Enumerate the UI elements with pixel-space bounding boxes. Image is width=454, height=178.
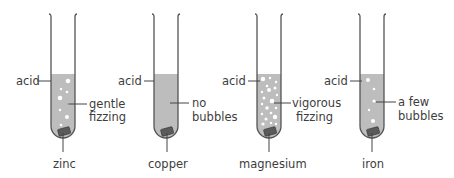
observation-line2: fizzing — [89, 110, 126, 124]
observation-line1: vigorous — [292, 96, 341, 110]
acid-label: acid — [118, 74, 142, 88]
test-tube-diagram: acid gentle fizzing zinc acid no bubbles… — [0, 0, 454, 178]
observation-line2: bubbles — [398, 109, 443, 123]
observation-line1: a few — [398, 95, 429, 109]
tube-copper — [152, 14, 180, 138]
observation-line2: bubbles — [192, 110, 237, 124]
metal-label: copper — [148, 157, 188, 171]
acid-label: acid — [16, 74, 40, 88]
metal-label: zinc — [53, 157, 76, 171]
observation-line2: fizzing — [296, 110, 333, 124]
acid-label: acid — [324, 74, 348, 88]
observation-line1: no — [192, 96, 206, 110]
metal-label: iron — [362, 157, 384, 171]
observation-line1: gentle — [89, 97, 125, 111]
tube-zinc — [49, 14, 77, 138]
metal-label: magnesium — [239, 157, 307, 171]
tube-magnesium — [255, 14, 283, 138]
acid-label: acid — [222, 74, 246, 88]
tube-iron — [358, 14, 386, 138]
